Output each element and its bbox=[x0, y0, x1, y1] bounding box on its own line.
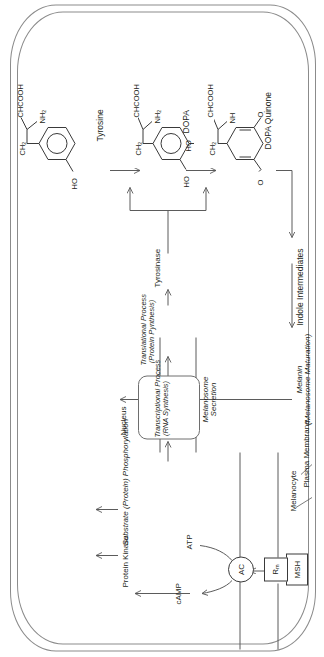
dopa-quinone-name-label: DOPA Quinone bbox=[264, 92, 273, 150]
atp-label: ATP bbox=[186, 534, 194, 549]
dopa-ho1-atom: HO bbox=[182, 176, 191, 187]
diagram-stage: Melanocyte Plasma Membrane MSH Rm AC ATP… bbox=[0, 0, 324, 657]
dopa-ch2-atom: CH2 bbox=[134, 141, 143, 155]
melanosome-secretion-label: Melanosome Secretion bbox=[202, 357, 219, 441]
dopa-quinone-nh-atom: NH bbox=[228, 112, 237, 123]
tyrosinase-label: Tyrosinase bbox=[154, 248, 162, 287]
substrate-phosphorylation-label: Substrate (Protein) Phosphorylation bbox=[122, 418, 130, 545]
msh-label: MSH bbox=[293, 560, 302, 578]
ac-label: AC bbox=[237, 563, 246, 574]
tyrosine-name-label: Tyrosine bbox=[96, 109, 105, 141]
adenylate-cyclase-circle: AC bbox=[228, 556, 254, 582]
nucleus-label: Nucleus bbox=[120, 406, 128, 435]
dopa-ho2-atom: HO bbox=[184, 140, 193, 151]
melanocyte-label: Melanocyte bbox=[290, 470, 298, 511]
dopa-quinone-chcooh-atom: CHCOOH bbox=[206, 84, 215, 117]
tyrosine-chcooh-atom: CHCOOH bbox=[16, 84, 25, 117]
indole-intermediates-label: Indole Intermediates bbox=[296, 248, 305, 325]
receptor-label: Rm bbox=[271, 564, 280, 574]
dopa-chcooh-atom: CHCOOH bbox=[132, 84, 141, 117]
melanin-label: Melanin (Melanosome Maturation) bbox=[296, 329, 313, 429]
camp-label: cAMP bbox=[175, 583, 183, 604]
dopa-name-label: DOPA bbox=[182, 110, 191, 133]
dopa-nh2-atom: NH2 bbox=[153, 109, 162, 123]
receptor-box: Rm bbox=[264, 557, 288, 581]
dopa-quinone-ch2-atom: CH2 bbox=[208, 141, 217, 155]
translational-process-label: Translational Process (Protein Pynthesis… bbox=[140, 297, 156, 365]
msh-ligand-box: MSH bbox=[286, 553, 308, 585]
transcriptional-process-label: Transcriptional Process (RNA Synthesis) bbox=[154, 379, 170, 437]
plasma-membrane-label: Plasma Membrane bbox=[303, 420, 311, 487]
tyrosine-ch2-atom: CH2 bbox=[18, 141, 27, 155]
tyrosine-ho-atom: HO bbox=[70, 178, 79, 189]
dopa-quinone-o1-atom: O bbox=[256, 179, 265, 185]
tyrosine-nh2-atom: NH2 bbox=[38, 109, 47, 123]
